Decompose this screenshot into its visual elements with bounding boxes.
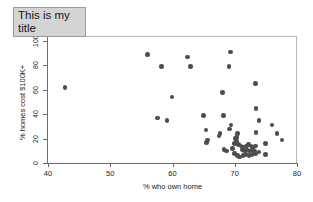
data-point — [201, 113, 206, 118]
data-point — [204, 140, 209, 145]
data-point — [253, 81, 258, 86]
scatter-plot-figure: This is my title 020406080100 4050607080… — [0, 0, 313, 202]
x-axis-tick — [297, 163, 298, 167]
data-point — [155, 116, 160, 121]
data-point — [228, 50, 233, 55]
x-axis-tick — [173, 163, 174, 167]
x-axis-tick — [235, 163, 236, 167]
y-axis-tick-label: 80 — [32, 56, 58, 74]
x-axis-tick — [48, 163, 49, 167]
data-point — [263, 152, 268, 157]
data-point — [159, 64, 164, 69]
chart-title: This is my title — [13, 7, 86, 37]
plot-panel — [48, 36, 297, 163]
x-axis-label: % who own home — [48, 182, 297, 191]
y-axis-tick-label: 20 — [32, 130, 58, 148]
data-point — [145, 52, 150, 57]
data-point — [220, 90, 225, 95]
y-axis-tick-label: 40 — [32, 105, 58, 123]
x-axis-tick-label: 50 — [100, 169, 120, 178]
data-point — [254, 130, 259, 135]
x-axis-tick-label: 60 — [163, 169, 183, 178]
data-point — [227, 127, 232, 132]
data-point — [230, 146, 235, 151]
x-axis-tick — [110, 163, 111, 167]
data-point — [165, 118, 170, 123]
x-axis-tick-label: 80 — [287, 169, 307, 178]
data-point — [263, 141, 268, 146]
data-point — [63, 85, 68, 90]
data-point — [233, 136, 238, 141]
x-axis-tick-label: 40 — [38, 169, 58, 178]
data-point — [221, 113, 226, 118]
y-axis-tick-label: 60 — [32, 81, 58, 99]
data-point — [185, 55, 190, 60]
data-point — [254, 106, 259, 111]
data-point — [224, 149, 229, 154]
y-axis-label: % homes cost $100K+ — [18, 52, 30, 152]
x-axis-tick-label: 70 — [225, 169, 245, 178]
data-point — [188, 64, 193, 69]
data-point — [257, 118, 262, 123]
data-point — [232, 141, 237, 146]
